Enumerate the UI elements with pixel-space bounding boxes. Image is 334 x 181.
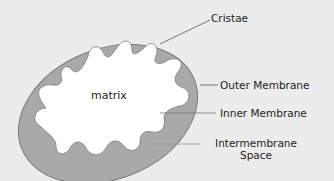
intermembrane-label-line1: Intermembrane bbox=[212, 137, 300, 149]
mitochondrion-diagram: matrix Cristae Outer Membrane Inner Memb… bbox=[0, 0, 334, 181]
cristae-label: Cristae bbox=[211, 12, 248, 24]
cristae-leader-line bbox=[160, 20, 210, 44]
outer-membrane-label: Outer Membrane bbox=[220, 79, 309, 91]
matrix-label: matrix bbox=[91, 90, 127, 102]
intermembrane-label-line2: Space bbox=[212, 149, 300, 161]
inner-membrane-label: Inner Membrane bbox=[220, 107, 307, 119]
intermembrane-space-label: Intermembrane Space bbox=[212, 137, 300, 161]
